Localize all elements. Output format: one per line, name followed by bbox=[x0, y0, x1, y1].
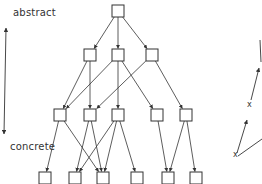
edge-n1c-n2b bbox=[97, 61, 146, 109]
abstract-label: abstract bbox=[13, 7, 56, 18]
hierarchy-diagram bbox=[0, 0, 262, 184]
node-box-n0 bbox=[112, 5, 124, 17]
side-line-top bbox=[260, 40, 261, 62]
edge-n2b-n3b bbox=[77, 121, 89, 172]
edge-n1a-n2a bbox=[63, 61, 87, 109]
node-box-n3d bbox=[131, 172, 143, 184]
abstraction-axis-arrow bbox=[4, 28, 6, 134]
edge-n2e-n3f bbox=[187, 121, 195, 172]
node-box-n1c bbox=[146, 49, 158, 61]
side-arrow-lower bbox=[237, 120, 247, 153]
edge-n2e-n3e bbox=[170, 121, 184, 172]
side-mark-lower: x bbox=[233, 150, 238, 159]
node-box-n2e bbox=[180, 109, 192, 121]
edge-n2d-n3e bbox=[158, 121, 167, 172]
concrete-label: concrete bbox=[10, 141, 55, 152]
edge-n1b-n2d bbox=[122, 61, 153, 109]
side-mark-upper: x bbox=[247, 100, 252, 109]
node-box-n1a bbox=[84, 49, 96, 61]
node-box-n3b bbox=[69, 172, 81, 184]
node-box-n3e bbox=[162, 172, 174, 184]
node-box-n1b bbox=[112, 49, 124, 61]
side-arrow-upper bbox=[251, 68, 259, 100]
edge-n0-n1c bbox=[123, 17, 147, 49]
edge-n2a-n3c bbox=[64, 121, 98, 172]
node-box-n3c bbox=[97, 172, 109, 184]
graph-edges bbox=[47, 17, 195, 172]
edge-n0-n1a bbox=[94, 17, 114, 49]
edge-n2c-n3d bbox=[120, 121, 135, 172]
node-box-n2b bbox=[84, 109, 96, 121]
graph-nodes bbox=[39, 5, 202, 184]
side-line-right bbox=[238, 139, 262, 156]
node-box-n3f bbox=[190, 172, 202, 184]
node-box-n2a bbox=[54, 109, 66, 121]
edge-n1b-n2a bbox=[66, 61, 112, 109]
edge-n1c-n2e bbox=[155, 61, 182, 109]
edge-n2c-n3c bbox=[105, 121, 117, 172]
node-box-n2d bbox=[151, 109, 163, 121]
node-box-n3a bbox=[39, 172, 51, 184]
node-box-n2c bbox=[112, 109, 124, 121]
edge-n2c-n3b bbox=[79, 121, 113, 172]
side-sketch bbox=[237, 40, 262, 156]
